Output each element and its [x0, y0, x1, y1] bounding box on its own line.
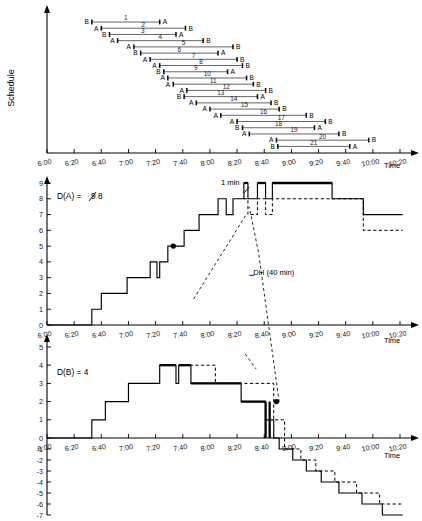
schedule-time-axis-label: Time: [384, 161, 400, 170]
schedule-bar-start-label: B: [84, 18, 89, 25]
panel-b-y-tick-label: -2: [37, 456, 43, 465]
panel-a-label-prefix: D(A) =: [57, 191, 82, 201]
schedule-bar-number: 7: [192, 52, 196, 59]
schedule-bar-number: 3: [141, 27, 145, 34]
panel-a-y-tick-label: 8: [39, 194, 43, 203]
schedule-bar-start-label: A: [203, 105, 208, 112]
schedule-bar-start-label: B: [102, 31, 107, 38]
schedule-bar-start-label: A: [94, 25, 99, 32]
schedule-bar-end-label: B: [240, 56, 245, 63]
panel-a-marker-dot: [171, 243, 176, 248]
schedule-bar-start-label: A: [189, 99, 194, 106]
schedule-bar-number: 16: [260, 108, 268, 115]
schedule-bar-start-label: B: [177, 93, 182, 100]
schedule-bar-end-label: A: [163, 18, 168, 25]
schedule-bar-start-label: A: [166, 81, 171, 88]
schedule-bar-number: 11: [210, 77, 217, 84]
panel-b-y-tick-label: 4: [39, 361, 43, 370]
schedule-bar-end-label: B: [250, 74, 255, 81]
panel-a-y-tick-label: 7: [39, 210, 43, 219]
panel-a-y-tick-label: 9: [39, 179, 43, 188]
panel-b-marker-dot: [274, 399, 279, 404]
panel-b-y-tick-label: 0: [39, 434, 43, 443]
panel-a-marker-dot: [171, 243, 176, 248]
panel-b-y-tick-label: -3: [37, 467, 43, 476]
schedule-bar-end-label: B: [342, 130, 347, 137]
schedule-bar-end-label: B: [309, 112, 314, 119]
schedule-bar-start-label: B: [270, 143, 275, 150]
schedule-bar-number: 18: [275, 120, 283, 127]
panel-b-marker-dot: [274, 399, 279, 404]
schedule-bar-end-label: A: [260, 93, 265, 100]
schedule-bar-end-label: A: [179, 31, 184, 38]
schedule-bar-start-label: A: [143, 56, 148, 63]
schedule-bar-end-label: A: [317, 124, 322, 131]
panel-b-y-tick-label: -7: [37, 511, 43, 520]
schedule-bar-end-label: B: [206, 37, 211, 44]
panel-a-y-tick-label: 6: [39, 226, 43, 235]
panel-b-y-tick-label: -5: [37, 489, 43, 498]
panel-b-y-tick-label: -6: [37, 500, 43, 509]
panel-a-y-tick-label: 1: [39, 305, 43, 314]
schedule-bar-end-label: B: [372, 136, 377, 143]
panel-b-y-tick-label: 3: [39, 379, 43, 388]
schedule-bar-number: 21: [310, 139, 318, 146]
schedule-bar-number: 14: [230, 95, 238, 102]
schedule-bar-number: 4: [159, 33, 163, 40]
schedule-bar-start-label: A: [126, 43, 131, 50]
schedule-bar-number: 19: [291, 126, 299, 133]
figure-root: Schedule 1BA2AB3BA4AB5AB6BA7AB8AB9BA10AB…: [0, 0, 422, 521]
schedule-bar-start-label: A: [230, 118, 235, 125]
schedule-bar-start-label: A: [160, 74, 165, 81]
schedule-bar-number: 6: [178, 46, 182, 53]
schedule-bar-number: 1: [124, 14, 128, 21]
panel-b-y-tick-label: -4: [37, 478, 43, 487]
schedule-bar-end-label: B: [282, 105, 287, 112]
panel-a-y-tick-label: 4: [39, 257, 43, 266]
schedule-bar-start-label: A: [110, 37, 115, 44]
panel-a-y-tick-label: 5: [39, 242, 43, 251]
panel-b-time-axis-label: Time: [384, 451, 400, 460]
panel-b-y-tick-label: 5: [39, 343, 43, 352]
schedule-bar-number: 9: [194, 64, 198, 71]
schedule-bar-end-label: B: [188, 25, 193, 32]
schedule-bar-start-label: B: [133, 49, 138, 56]
schedule-bar-number: 20: [319, 133, 327, 140]
schedule-bar-end-label: A: [221, 49, 226, 56]
panel-a-annotation-one-min: 1 min: [221, 178, 240, 187]
schedule-y-axis-label: Schedule: [6, 69, 16, 107]
schedule-bar-end-label: A: [231, 68, 236, 75]
panel-a-y-tick-label: 0: [39, 321, 43, 330]
panel-b-label: D(B) = 4: [57, 367, 89, 377]
schedule-crew-balance-figure: Schedule 1BA2AB3BA4AB5AB6BA7AB8AB9BA10AB…: [0, 0, 422, 521]
schedule-bar-end-label: B: [269, 87, 274, 94]
panel-a-label-value: 8: [98, 191, 103, 201]
schedule-bar-end-label: B: [274, 99, 279, 106]
panel-a-y-tick-label: 2: [39, 289, 43, 298]
schedule-bar-end-label: A: [353, 143, 358, 150]
schedule-bar-number: 15: [241, 101, 249, 108]
panel-b-y-tick-label: 2: [39, 397, 43, 406]
schedule-bar-number: 13: [217, 89, 225, 96]
schedule-bar-start-label: A: [242, 130, 247, 137]
panel-b-y-tick-label: 1: [39, 415, 43, 424]
schedule-bar-start-label: A: [213, 112, 218, 119]
schedule-bar-number: 8: [199, 58, 203, 65]
panel-a-annotation-deadhead: DH (40 min): [253, 268, 294, 277]
schedule-bar-start-label: B: [235, 124, 240, 131]
schedule-bar-number: 5: [182, 39, 186, 46]
schedule-bar-end-label: B: [246, 62, 251, 69]
schedule-bar-end-label: B: [256, 81, 261, 88]
schedule-bar-end-label: B: [236, 43, 241, 50]
panel-a-y-tick-label: 3: [39, 273, 43, 282]
schedule-bar-end-label: B: [328, 118, 333, 125]
panel-a-time-axis-label: Time: [384, 336, 400, 345]
